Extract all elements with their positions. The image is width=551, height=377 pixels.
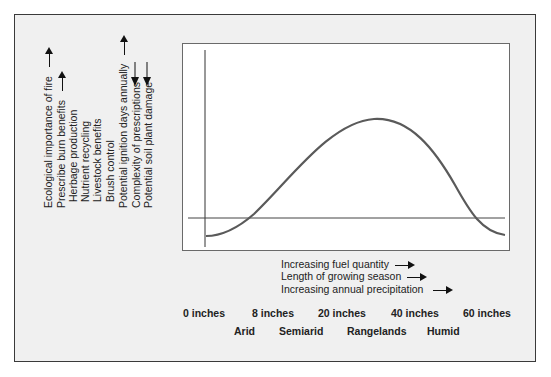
tick-40-inches: 40 inches: [391, 307, 439, 319]
tick-0-inches: 0 inches: [183, 307, 225, 319]
y-label-ecological-importance: Ecological importance of fire: [42, 47, 54, 208]
zone-semiarid: Semiarid: [279, 325, 323, 337]
y-label-complexity-prescriptions: Complexity of prescriptions: [130, 82, 142, 208]
x-label-growing-season: Length of growing season: [281, 270, 427, 282]
y-label-soil-plant-damage: Potential soil plant damage: [142, 82, 154, 208]
zone-humid: Humid: [427, 325, 460, 337]
up-arrow-icon: [45, 47, 53, 67]
tick-8-inches: 8 inches: [252, 307, 294, 319]
y-label-brush-control: Brush control: [104, 140, 116, 202]
y-label-prescribe-burn: Prescribe burn benefits: [55, 71, 67, 208]
y-label-ignition-days: Potential ignition days annually: [117, 35, 129, 208]
up-arrow-icon: [120, 35, 128, 55]
tick-60-inches: 60 inches: [463, 307, 511, 319]
right-arrow-icon: [407, 273, 427, 281]
x-label-fuel-quantity: Increasing fuel quantity: [281, 258, 415, 270]
right-arrow-icon: [433, 286, 453, 294]
y-label-nutrient-recycling: Nutrient recycling: [79, 121, 91, 202]
y-label-livestock-benefits: Livestock benefits: [91, 119, 103, 202]
chart-area: [182, 43, 510, 251]
tick-20-inches: 20 inches: [318, 307, 366, 319]
zone-arid: Arid: [234, 325, 255, 337]
x-label-annual-precipitation: Increasing annual precipitation: [281, 283, 453, 295]
right-arrow-icon: [395, 261, 415, 269]
up-arrow-icon: [58, 71, 66, 91]
y-label-herbage-production: Herbage production: [67, 110, 79, 202]
zone-rangelands: Rangelands: [347, 325, 407, 337]
